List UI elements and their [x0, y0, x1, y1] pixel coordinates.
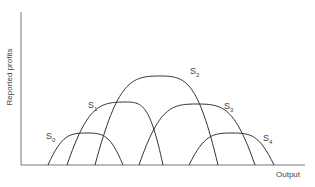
curve-label-s4: S4: [263, 133, 272, 145]
chart-canvas: [0, 0, 315, 187]
curve-label-subscript: 1: [94, 106, 97, 112]
curve-s0: [48, 133, 123, 165]
curve-label-s2: S2: [190, 66, 199, 78]
profit-curves-diagram: Reported profits Output S0S1S2S3S4: [0, 0, 315, 187]
curves: [48, 76, 274, 165]
curve-label-subscript: 3: [230, 107, 233, 113]
curve-label-s1: S1: [88, 100, 97, 112]
curve-label-s0: S0: [46, 131, 55, 143]
curve-label-subscript: 0: [52, 137, 55, 143]
curve-label-s3: S3: [224, 101, 233, 113]
y-axis-label-text: Reported profits: [5, 49, 14, 106]
curve-s3: [139, 104, 255, 165]
y-axis-label: Reported profits: [2, 22, 16, 132]
curve-s4: [189, 133, 274, 165]
curve-s2: [95, 76, 218, 165]
curve-label-subscript: 4: [269, 139, 272, 145]
x-axis-label: Output: [276, 170, 300, 179]
curve-label-subscript: 2: [196, 72, 199, 78]
